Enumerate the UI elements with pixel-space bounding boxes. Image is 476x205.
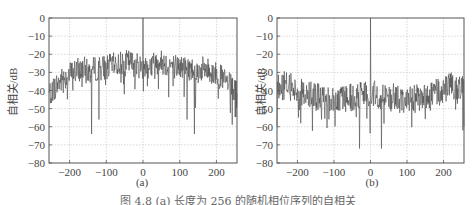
x-tick-label: 100 [171, 166, 188, 178]
y-axis-label-b: 自相关/dB [252, 62, 268, 122]
panel-label-a: (a) [122, 176, 162, 188]
y-tick-label: 0 [268, 12, 274, 24]
y-tick-label: −70 [28, 139, 46, 151]
x-tick-label: 200 [435, 166, 452, 178]
y-tick-label: −60 [256, 121, 274, 133]
y-tick-label: −80 [256, 157, 274, 169]
y-axis-label-a: 自相关/dB [4, 62, 20, 122]
x-tick-label: −100 [95, 166, 118, 178]
y-tick-label: −30 [28, 66, 46, 78]
y-tick-label: −10 [28, 30, 46, 42]
x-tick-label: 200 [208, 166, 225, 178]
plot-area-b: −200−10001002000−10−20−30−40−50−60−70−80 [238, 0, 476, 190]
figure-caption: 图 4.8 (a) 长度为 256 的随机相位序列的自相关 [0, 192, 476, 205]
autocorrelation-line [49, 18, 237, 134]
y-tick-label: −50 [28, 103, 46, 115]
chart-panel-b: −200−10001002000−10−20−30−40−50−60−70−80… [238, 0, 476, 190]
y-tick-label: −70 [256, 139, 274, 151]
y-tick-label: −20 [256, 48, 274, 60]
x-tick-label: 100 [399, 166, 416, 178]
y-tick-label: −60 [28, 121, 46, 133]
y-tick-label: 0 [40, 12, 46, 24]
x-tick-label: −200 [286, 166, 309, 178]
y-tick-label: −80 [28, 157, 46, 169]
autocorrelation-line [277, 18, 464, 149]
y-tick-label: −10 [256, 30, 274, 42]
panel-label-b: (b) [352, 176, 392, 188]
x-tick-label: −200 [58, 166, 81, 178]
y-tick-label: −40 [28, 85, 46, 97]
plot-area-a: −200−10001002000−10−20−30−40−50−60−70−80 [0, 0, 238, 190]
y-tick-label: −20 [28, 48, 46, 60]
x-tick-label: −100 [323, 166, 346, 178]
chart-panel-a: −200−10001002000−10−20−30−40−50−60−70−80… [0, 0, 238, 190]
